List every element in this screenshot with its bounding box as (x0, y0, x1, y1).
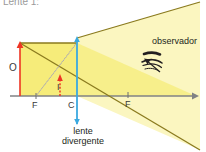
lens-caption-line1: lente (50, 126, 116, 136)
lens-caption-line2: divergente (50, 136, 116, 146)
observer-label: observador (152, 36, 197, 46)
focus-left-label: F (32, 100, 38, 110)
center-label: C (68, 100, 75, 110)
diagram-canvas: Lente 1: O I F C F observador lente dive… (0, 0, 206, 152)
focus-right-label: F (125, 99, 131, 109)
page-title: Lente 1: (3, 0, 39, 8)
image-label: I (57, 82, 60, 92)
object-label: O (9, 62, 17, 74)
lens-caption: lente divergente (50, 126, 116, 147)
